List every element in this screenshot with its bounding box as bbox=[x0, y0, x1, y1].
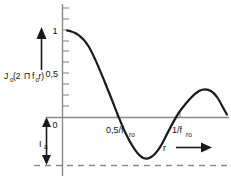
x-axis-ticks bbox=[117, 113, 180, 118]
figure-container: 1 0,5 0 J o (2 Π f o r) 0,5/f ro 1/f ro … bbox=[0, 0, 231, 181]
y-axis-label-open: (2 bbox=[13, 71, 21, 81]
x-axis-arrow bbox=[176, 143, 212, 153]
y-tick-label-0: 0 bbox=[52, 120, 57, 130]
pi-symbol: Π bbox=[24, 71, 30, 81]
y-axis-arrow bbox=[37, 27, 47, 70]
bessel-curve bbox=[67, 31, 227, 159]
x-tick-label-half-sub: ro bbox=[129, 131, 135, 138]
x-tick-label-one: 1/f ro bbox=[172, 125, 192, 138]
x-axis-label-r: r bbox=[163, 143, 166, 153]
amplitude-double-arrow bbox=[42, 117, 51, 165]
amplitude-label-sub: a bbox=[44, 143, 48, 150]
amplitude-label-main: I bbox=[39, 139, 42, 149]
x-tick-label-one-sub: ro bbox=[186, 131, 192, 138]
bessel-plot-svg: 1 0,5 0 J o (2 Π f o r) 0,5/f ro 1/f ro … bbox=[0, 0, 231, 181]
x-tick-label-half-main: 0,5/f bbox=[106, 125, 124, 135]
y-axis-label-close: r) bbox=[39, 71, 45, 81]
y-tick-label-1: 1 bbox=[52, 26, 57, 36]
y-axis-label: J o (2 Π f o r) bbox=[4, 71, 44, 83]
y-axis-label-J: J bbox=[4, 71, 8, 81]
y-tick-label-05: 0,5 bbox=[45, 69, 58, 79]
y-axis-ticks bbox=[63, 8, 70, 106]
x-tick-label-half: 0,5/f ro bbox=[106, 125, 135, 138]
x-tick-label-one-main: 1/f bbox=[172, 125, 183, 135]
